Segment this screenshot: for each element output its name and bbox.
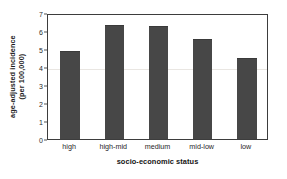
x-axis-tick-label: high	[62, 142, 76, 151]
y-axis-title-line1: age-adjusted incidence	[8, 36, 17, 119]
y-axis-title: age-adjusted incidence (per 100,000)	[4, 14, 30, 140]
y-axis-tick-label: 1	[39, 119, 43, 126]
bar	[60, 51, 79, 139]
y-axis-tick-labels: 01234567	[30, 14, 44, 140]
y-axis-title-line2: (per 100,000)	[17, 36, 26, 119]
y-axis-tick-label: 5	[39, 47, 43, 54]
bar	[105, 25, 124, 139]
x-axis-tick-label: low	[240, 142, 251, 151]
y-axis-tick-label: 6	[39, 29, 43, 36]
y-axis-tick-label: 2	[39, 101, 43, 108]
x-axis-tick-labels: highhigh-midmediummid-lowlow	[47, 142, 268, 154]
y-axis-title-text: age-adjusted incidence (per 100,000)	[8, 36, 25, 119]
x-axis-tick-label: high-mid	[100, 142, 128, 151]
x-axis-tick-label: medium	[145, 142, 171, 151]
y-axis-tick-label: 4	[39, 65, 43, 72]
y-axis-tick-label: 3	[39, 83, 43, 90]
bar-chart-figure: age-adjusted incidence (per 100,000) 012…	[0, 0, 287, 179]
x-axis-tick-label: mid-low	[189, 142, 214, 151]
plot-inner	[48, 15, 267, 139]
bar	[193, 39, 212, 139]
bar	[149, 26, 168, 139]
y-axis-tick-label: 0	[39, 137, 43, 144]
bar	[237, 58, 256, 139]
plot-area	[47, 14, 268, 140]
y-axis-tick-label: 7	[39, 11, 43, 18]
x-axis-title: socio-economic status	[47, 157, 268, 166]
